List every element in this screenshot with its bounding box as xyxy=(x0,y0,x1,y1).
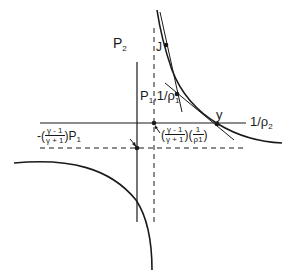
label-p2: P2 xyxy=(113,36,127,53)
arrowhead-icon xyxy=(155,125,158,129)
point-vertical-asymptote-intercept xyxy=(152,121,157,126)
v-asym-fraction2: 1ρ1 xyxy=(193,125,204,144)
label-initial-p: P xyxy=(140,88,149,103)
label-y: y xyxy=(216,108,223,121)
label-p2-main: P xyxy=(113,35,122,51)
label-initial-sub2: 1 xyxy=(175,96,179,105)
v-asym-mid: )( xyxy=(185,128,193,142)
point-y xyxy=(215,122,220,127)
v-asym-fraction1: γ - 1γ + 1 xyxy=(165,125,185,144)
h-asym-num: γ - 1 xyxy=(45,126,65,136)
v-asym-num: γ - 1 xyxy=(165,125,185,135)
v-asym-num2: 1 xyxy=(193,125,204,135)
label-rho2-sub: 2 xyxy=(268,122,272,131)
label-vertical-asymptote: (γ - 1γ + 1)(1ρ1) xyxy=(161,125,208,144)
h-asym-fraction: γ - 1γ + 1 xyxy=(45,126,65,145)
h-asym-sub: 1 xyxy=(77,135,81,144)
label-rho2-main: 1/ρ xyxy=(250,114,268,129)
v-asym-close: ) xyxy=(204,128,208,142)
label-horizontal-asymptote: -(γ - 1γ + 1)P1 xyxy=(37,126,81,145)
label-p2-sub: 2 xyxy=(122,44,126,53)
v-asym-den: γ + 1 xyxy=(165,135,185,144)
h-asym-suffix: )P xyxy=(65,129,77,143)
h-asym-den: γ + 1 xyxy=(45,136,65,145)
point-j xyxy=(164,43,169,48)
label-initial-state: P1,1/ρ1 xyxy=(140,89,179,105)
label-j: J xyxy=(156,41,162,53)
label-initial-mid: ,1/ρ xyxy=(153,88,175,103)
hugoniot-lower-branch xyxy=(14,162,152,270)
label-rho2: 1/ρ2 xyxy=(250,115,273,131)
h-asym-prefix: -( xyxy=(37,129,45,143)
v-asym-den2: ρ1 xyxy=(193,135,204,144)
